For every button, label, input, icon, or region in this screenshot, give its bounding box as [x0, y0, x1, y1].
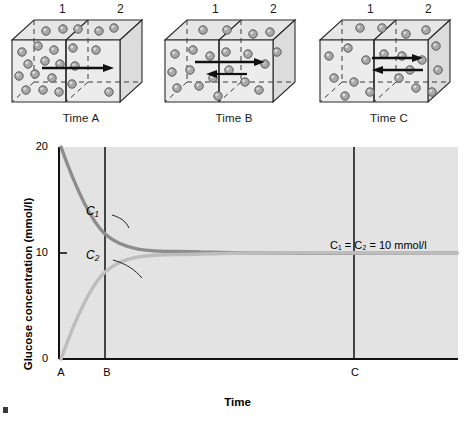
panel-time-a: 1 2	[2, 0, 160, 138]
panel-caption: Time C	[310, 112, 468, 124]
equilibrium-annotation: C₁ = C₂ = 10 mmol/l	[330, 239, 427, 251]
diffusion-box-b	[155, 4, 313, 110]
curve-label-c2: C₂	[86, 248, 99, 262]
panel-time-b: 1 2	[155, 0, 313, 138]
concentration-chart: Glucose concentration (mmol/l) 20 10 0 A…	[0, 138, 475, 425]
panel-caption: Time B	[155, 112, 313, 124]
diffusion-box-c	[310, 4, 468, 110]
chart-plot-area	[0, 138, 475, 388]
x-axis-label: Time	[0, 396, 475, 408]
corner-marker	[3, 407, 8, 413]
diagram-panels: 1 2	[0, 0, 475, 138]
panel-caption: Time A	[2, 112, 160, 124]
panel-time-c: 1 2	[310, 0, 468, 138]
curve-label-c1: C₁	[86, 204, 98, 218]
diffusion-box-a	[2, 4, 160, 110]
